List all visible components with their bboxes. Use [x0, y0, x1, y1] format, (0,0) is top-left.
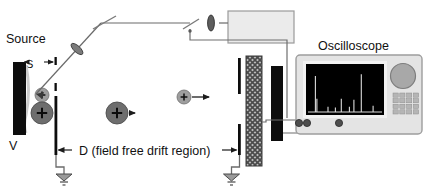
source-plate [13, 62, 26, 135]
ion-in-source-large [31, 102, 53, 124]
oscilloscope-button[interactable] [400, 104, 405, 108]
oscilloscope-knob[interactable] [391, 64, 416, 89]
oscilloscope-button[interactable] [400, 110, 405, 114]
oscilloscope-button[interactable] [393, 93, 398, 97]
figure-canvas: Source S V D (field free drift region) L… [0, 0, 426, 195]
drift-exit-plate-bottom [238, 124, 241, 155]
oscilloscope[interactable] [295, 55, 422, 134]
oscilloscope-button[interactable] [413, 110, 418, 114]
oscilloscope-button[interactable] [400, 93, 405, 97]
extraction-grid-mid [55, 83, 57, 91]
ion-drift-light [177, 90, 209, 104]
drift-entrance-plate [55, 96, 58, 155]
extraction-grid-top [55, 57, 57, 65]
laser-output-lens [208, 15, 215, 31]
oscilloscope-button[interactable] [393, 104, 398, 108]
oscilloscope-button[interactable] [393, 99, 398, 103]
oscilloscope-button[interactable] [413, 93, 418, 97]
oscilloscope-button[interactable] [407, 110, 412, 114]
mirror-right [183, 19, 199, 29]
reflector-grid-hatched [246, 56, 262, 166]
ground-symbol-left [56, 155, 72, 185]
oscilloscope-button[interactable] [407, 104, 412, 108]
oscilloscope-screen [306, 64, 384, 115]
ground-symbol-right [224, 155, 240, 185]
oscilloscope-button[interactable] [413, 104, 418, 108]
oscilloscope-port-3[interactable] [335, 119, 342, 126]
laser-beam-diagonal [36, 23, 101, 94]
oscilloscope-port-2[interactable] [303, 119, 310, 126]
laser-box[interactable] [228, 11, 294, 43]
drift-exit-plate-top [238, 58, 241, 94]
oscilloscope-port-1[interactable] [295, 119, 302, 126]
oscilloscope-button[interactable] [400, 99, 405, 103]
oscilloscope-button[interactable] [413, 99, 418, 103]
trigger-pickoff-node [188, 29, 191, 32]
detector-plate [271, 66, 283, 141]
schematic-drawing [0, 0, 426, 195]
oscilloscope-button[interactable] [407, 93, 412, 97]
oscilloscope-button[interactable] [393, 110, 398, 114]
oscilloscope-button[interactable] [407, 99, 412, 103]
ion-drift-heavy [106, 102, 135, 124]
